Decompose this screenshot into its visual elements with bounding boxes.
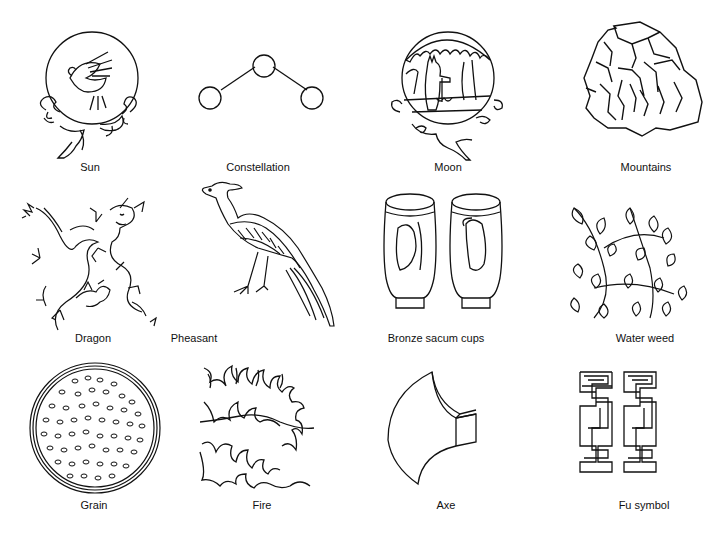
item-fire: Fire [178,356,356,545]
item-pheasant: Pheasant [178,178,356,356]
pheasant-icon [178,178,356,348]
label-constellation: Constellation [226,161,290,173]
label-fire: Fire [253,499,272,511]
grain-icon [0,356,178,501]
item-mountains: Mountains [534,0,713,178]
sun-icon [0,0,178,170]
label-dragon: Dragon [75,332,111,344]
label-pheasant: Pheasant [171,332,217,344]
label-grain: Grain [81,499,108,511]
label-moon: Moon [434,161,462,173]
item-bronze-sacum-cups: Bronze sacum cups [356,178,534,356]
item-constellation: Constellation [178,0,356,178]
moon-icon [356,0,534,170]
item-sun: Sun [0,0,178,178]
label-water-weed: Water weed [616,332,674,344]
item-water-weed: Water weed [534,178,713,356]
axe-icon [356,356,534,501]
water-weed-icon [534,178,713,338]
item-dragon: Dragon [0,178,178,356]
label-mountains: Mountains [621,161,672,173]
item-moon: Moon [356,0,534,178]
dragon-icon [0,178,178,338]
item-axe: Axe [356,356,534,545]
fire-icon [178,356,356,501]
label-bronze-sacum-cups: Bronze sacum cups [388,332,485,344]
constellation-icon [178,0,356,170]
mountains-icon [534,0,713,170]
item-grain: Grain [0,356,178,545]
item-fu-symbol: Fu symbol [534,356,713,545]
label-axe: Axe [437,499,456,511]
bronze-cups-icon [356,178,534,338]
label-sun: Sun [80,161,100,173]
label-fu-symbol: Fu symbol [619,499,670,511]
fu-symbol-icon [534,356,713,501]
